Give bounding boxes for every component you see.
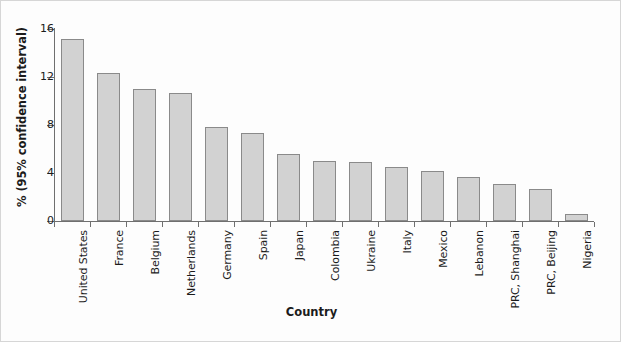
bar[interactable] — [133, 89, 156, 221]
y-tick-label: 4 — [12, 166, 54, 179]
x-category-label: Lebanon — [473, 230, 486, 276]
bar-series — [54, 29, 594, 221]
x-axis-title: Country — [1, 305, 621, 319]
x-category-label: Ukraine — [365, 230, 378, 272]
bar[interactable] — [61, 39, 84, 221]
bar[interactable] — [385, 167, 408, 221]
x-tick-mark — [54, 222, 55, 227]
bar[interactable] — [565, 214, 588, 221]
y-tick-label: 0 — [12, 214, 54, 227]
bar[interactable] — [457, 177, 480, 221]
x-category-label: Colombia — [329, 230, 342, 281]
x-tick-mark — [558, 222, 559, 227]
x-tick-mark — [342, 222, 343, 227]
x-tick-mark — [378, 222, 379, 227]
x-category-label: Belgium — [149, 230, 162, 274]
x-tick-mark — [450, 222, 451, 227]
chart-figure: % (95% confidence interval) 0481216 Unit… — [0, 0, 621, 342]
bar[interactable] — [97, 73, 120, 221]
y-tick-label: 8 — [12, 118, 54, 131]
bar[interactable] — [493, 184, 516, 221]
x-category-label: United States — [77, 230, 90, 303]
x-tick-mark — [522, 222, 523, 227]
y-tick-label: 12 — [12, 70, 54, 83]
x-tick-mark — [306, 222, 307, 227]
x-tick-mark — [90, 222, 91, 227]
bar[interactable] — [421, 171, 444, 221]
x-tick-mark — [126, 222, 127, 227]
y-axis-ticks: 0481216 — [1, 1, 54, 342]
x-category-label: PRC, Shanghai — [509, 230, 522, 309]
x-category-label: Netherlands — [185, 230, 198, 296]
bar[interactable] — [169, 93, 192, 221]
x-category-label: Spain — [257, 230, 270, 260]
x-tick-mark — [486, 222, 487, 227]
x-axis-line — [54, 221, 594, 222]
x-category-label: Germany — [221, 230, 234, 280]
x-tick-mark — [234, 222, 235, 227]
x-category-label: Nigeria — [581, 230, 594, 269]
bar[interactable] — [529, 189, 552, 221]
x-category-label: Japan — [293, 230, 306, 260]
bar[interactable] — [349, 162, 372, 221]
bar[interactable] — [205, 127, 228, 221]
x-category-label: PRC, Beijing — [545, 230, 558, 295]
x-tick-mark — [414, 222, 415, 227]
x-category-label: France — [113, 230, 126, 266]
x-tick-mark — [162, 222, 163, 227]
x-category-label: Italy — [401, 230, 414, 253]
x-tick-mark — [594, 222, 595, 227]
bar[interactable] — [313, 161, 336, 221]
y-tick-label: 16 — [12, 22, 54, 35]
x-tick-mark — [198, 222, 199, 227]
bar[interactable] — [241, 133, 264, 221]
x-category-label: Mexico — [437, 230, 450, 268]
x-tick-mark — [270, 222, 271, 227]
bar[interactable] — [277, 154, 300, 221]
